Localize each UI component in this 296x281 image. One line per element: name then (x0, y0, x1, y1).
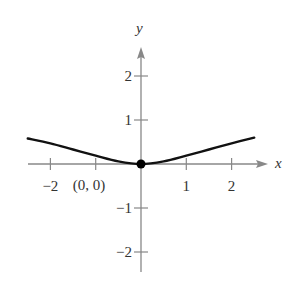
y-tick-label: 2 (125, 68, 133, 84)
y-tick-label: −2 (116, 244, 132, 260)
chart-svg: −212−2−112 (0, 0) x y (0, 0, 296, 281)
y-tick-label: 1 (125, 112, 133, 128)
y-axis-label: y (134, 20, 143, 36)
y-tick-label: −1 (116, 200, 132, 216)
point-label: (0, 0) (73, 177, 106, 194)
x-axis-label: x (274, 155, 282, 171)
x-tick-label: 2 (228, 178, 236, 194)
x-tick-label: −2 (42, 178, 58, 194)
x-tick-label: 1 (183, 178, 191, 194)
origin-point-marker (137, 160, 146, 169)
